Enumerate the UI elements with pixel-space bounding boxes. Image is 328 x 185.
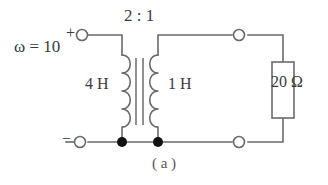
wire-load-bottom bbox=[248, 118, 283, 142]
primary-coil bbox=[122, 55, 130, 127]
resistor-box-icon bbox=[272, 62, 294, 118]
negative-polarity-label: − bbox=[62, 131, 71, 147]
junction-dot-primary bbox=[117, 137, 127, 147]
input-negative-terminal[interactable] bbox=[75, 137, 86, 148]
positive-polarity-label: + bbox=[66, 25, 75, 41]
secondary-inductance-label: 1 H bbox=[168, 76, 192, 92]
secondary-coil bbox=[150, 55, 158, 127]
wire-load-top bbox=[248, 35, 283, 62]
primary-inductance-label: 4 H bbox=[85, 76, 109, 92]
figure-caption: ( a ) bbox=[0, 156, 328, 171]
wire-secondary-top bbox=[158, 35, 232, 55]
wire-primary-top bbox=[88, 35, 122, 55]
circuit-diagram-figure: ω = 10 + − 2 : 1 4 H 1 H 20 Ω ( a ) bbox=[0, 0, 328, 185]
source-frequency-label: ω = 10 bbox=[14, 38, 60, 55]
input-positive-terminal[interactable] bbox=[77, 30, 88, 41]
output-top-terminal[interactable] bbox=[234, 30, 245, 41]
output-bottom-terminal[interactable] bbox=[234, 137, 245, 148]
junction-dot-secondary bbox=[153, 137, 163, 147]
resistor-value-label: 20 Ω bbox=[271, 74, 303, 90]
turns-ratio-label: 2 : 1 bbox=[124, 7, 154, 24]
